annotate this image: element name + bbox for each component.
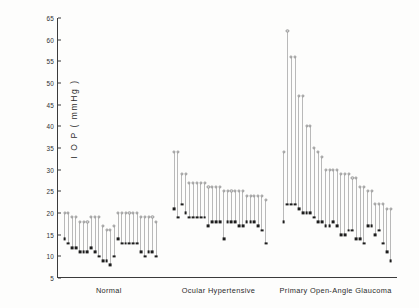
- y-axis-tick-label-5: 5: [50, 275, 58, 282]
- range-bar: [291, 57, 292, 204]
- range-bar: [148, 217, 149, 252]
- range-bar: [208, 187, 209, 226]
- y-axis-tick-label-60: 60: [46, 36, 58, 43]
- range-bar: [227, 191, 228, 221]
- max-iop-marker: [234, 190, 237, 193]
- range-bar: [125, 213, 126, 243]
- max-iop-marker: [294, 55, 297, 58]
- range-bar: [356, 178, 357, 239]
- range-bar: [156, 222, 157, 257]
- min-iop-marker: [301, 212, 304, 215]
- min-iop-marker: [343, 233, 346, 236]
- min-iop-marker: [359, 238, 362, 241]
- min-iop-marker: [90, 246, 93, 249]
- max-iop-marker: [230, 190, 233, 193]
- y-axis-tick-label-45: 45: [46, 101, 58, 108]
- range-bar: [306, 126, 307, 213]
- max-iop-marker: [362, 185, 365, 188]
- min-iop-marker: [147, 251, 150, 254]
- max-iop-marker: [215, 185, 218, 188]
- range-bar: [298, 96, 299, 209]
- min-iop-marker: [136, 242, 139, 245]
- min-iop-marker: [241, 225, 244, 228]
- min-iop-marker: [257, 225, 260, 228]
- min-iop-marker: [355, 238, 358, 241]
- max-iop-marker: [211, 185, 214, 188]
- range-bar: [72, 217, 73, 247]
- min-iop-marker: [298, 207, 301, 210]
- max-iop-marker: [355, 177, 358, 180]
- min-iop-marker: [340, 233, 343, 236]
- max-iop-marker: [328, 168, 331, 171]
- max-iop-marker: [374, 203, 377, 206]
- min-iop-marker: [363, 242, 366, 245]
- max-iop-marker: [147, 216, 150, 219]
- range-bar: [144, 217, 145, 256]
- max-iop-marker: [226, 190, 229, 193]
- max-iop-marker: [290, 55, 293, 58]
- range-bar: [321, 157, 322, 222]
- min-iop-marker: [71, 246, 74, 249]
- max-iop-marker: [67, 211, 70, 214]
- min-iop-marker: [143, 255, 146, 258]
- max-iop-marker: [316, 151, 319, 154]
- min-iop-marker: [324, 225, 327, 228]
- min-iop-marker: [180, 203, 183, 206]
- min-iop-marker: [82, 251, 85, 254]
- range-bar: [235, 191, 236, 221]
- min-iop-marker: [378, 229, 381, 232]
- min-iop-marker: [184, 212, 187, 215]
- min-iop-marker: [86, 251, 89, 254]
- range-bar: [68, 213, 69, 243]
- min-iop-marker: [385, 251, 388, 254]
- min-iop-marker: [222, 238, 225, 241]
- range-bar: [79, 222, 80, 252]
- max-iop-marker: [260, 194, 263, 197]
- max-iop-marker: [105, 229, 108, 232]
- max-iop-marker: [359, 185, 362, 188]
- range-bar: [337, 170, 338, 226]
- min-iop-marker: [261, 229, 264, 232]
- range-bar: [129, 213, 130, 243]
- range-bar: [87, 222, 88, 252]
- max-iop-marker: [370, 190, 373, 193]
- max-iop-marker: [136, 211, 139, 214]
- max-iop-marker: [192, 181, 195, 184]
- y-axis-tick-label-55: 55: [46, 58, 58, 65]
- y-axis-tick-mark-5: [58, 278, 61, 279]
- min-iop-marker: [67, 242, 70, 245]
- max-iop-marker: [195, 181, 198, 184]
- min-iop-marker: [113, 255, 116, 258]
- min-iop-marker: [245, 220, 248, 223]
- min-iop-marker: [336, 225, 339, 228]
- max-iop-marker: [151, 216, 154, 219]
- range-bar: [193, 183, 194, 218]
- range-bar: [283, 152, 284, 221]
- range-bar: [390, 209, 391, 261]
- y-axis-tick-label-10: 10: [46, 253, 58, 260]
- max-iop-marker: [128, 211, 131, 214]
- max-iop-marker: [71, 216, 74, 219]
- range-bar: [254, 196, 255, 222]
- range-bar: [114, 226, 115, 256]
- min-iop-marker: [347, 229, 350, 232]
- max-iop-marker: [176, 151, 179, 154]
- min-iop-marker: [140, 251, 143, 254]
- range-bar: [379, 204, 380, 230]
- range-bar: [352, 178, 353, 230]
- max-iop-marker: [249, 194, 252, 197]
- max-iop-marker: [78, 220, 81, 223]
- range-bar: [333, 170, 334, 222]
- max-iop-marker: [309, 125, 312, 128]
- range-bar: [310, 126, 311, 213]
- max-iop-marker: [116, 211, 119, 214]
- max-iop-marker: [90, 216, 93, 219]
- min-iop-marker: [63, 238, 66, 241]
- max-iop-marker: [282, 151, 285, 154]
- range-bar: [231, 191, 232, 221]
- max-iop-marker: [63, 211, 66, 214]
- range-bar: [91, 217, 92, 247]
- range-bar: [204, 183, 205, 218]
- max-iop-marker: [241, 190, 244, 193]
- max-iop-marker: [336, 168, 339, 171]
